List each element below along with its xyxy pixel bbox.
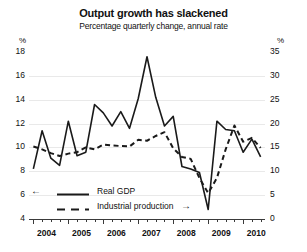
right-axis-tick-label: 25 xyxy=(270,95,292,104)
x-axis-tick-label: 2010 xyxy=(236,228,276,238)
legend-dashed-line-icon xyxy=(57,208,89,211)
x-axis-minor-tick xyxy=(42,219,43,222)
x-axis-major-tick xyxy=(173,219,174,224)
left-axis-tick-label: 12 xyxy=(5,119,25,128)
right-axis-unit-label: % xyxy=(277,36,284,45)
right-axis-tick-label: 0 xyxy=(270,214,292,223)
x-axis-minor-tick xyxy=(95,219,96,222)
left-axis-tick-label: 4 xyxy=(5,214,25,223)
right-axis-tick-label: 15 xyxy=(270,142,292,151)
right-axis-tick-label: 5 xyxy=(270,190,292,199)
x-axis-minor-tick xyxy=(112,219,113,222)
left-axis-tick-label: 16 xyxy=(5,71,25,80)
x-axis-minor-tick xyxy=(130,219,131,222)
x-axis-major-tick xyxy=(208,219,209,224)
legend-label-industrial-production: Industrial production xyxy=(97,201,174,211)
legend-solid-line-icon xyxy=(57,193,89,196)
right-axis-tick-label: 35 xyxy=(270,47,292,56)
series-industrial-production xyxy=(33,125,260,193)
legend-label-real-gdp: Real GDP xyxy=(97,186,135,196)
x-axis-minor-tick xyxy=(156,219,157,222)
x-axis-major-tick xyxy=(103,219,104,224)
x-axis-minor-tick xyxy=(51,219,52,222)
chart-subtitle: Percentage quarterly change, annual rate xyxy=(0,21,307,31)
x-axis-minor-tick xyxy=(86,219,87,222)
left-axis-tick-label: 6 xyxy=(5,190,25,199)
x-axis-minor-tick xyxy=(217,219,218,222)
x-axis-minor-tick xyxy=(226,219,227,222)
x-axis-major-tick xyxy=(138,219,139,224)
x-axis-minor-tick xyxy=(261,219,262,222)
chart-figure: Output growth has slackened Percentage q… xyxy=(0,0,307,252)
left-axis-tick-label: 14 xyxy=(5,95,25,104)
left-axis-unit-label: % xyxy=(19,36,26,45)
x-axis-minor-tick xyxy=(164,219,165,222)
x-axis-minor-tick xyxy=(147,219,148,222)
left-axis-tick-label: 8 xyxy=(5,166,25,175)
x-axis-minor-tick xyxy=(234,219,235,222)
x-axis-minor-tick xyxy=(60,219,61,222)
x-axis-major-tick xyxy=(33,219,34,224)
left-axis-tick-label: 10 xyxy=(5,142,25,151)
x-axis-major-tick xyxy=(68,219,69,224)
x-axis-minor-tick xyxy=(191,219,192,222)
left-axis-tick-label: 18 xyxy=(5,47,25,56)
x-axis-minor-tick xyxy=(182,219,183,222)
x-axis-major-tick xyxy=(243,219,244,224)
x-axis-minor-tick xyxy=(199,219,200,222)
x-axis-minor-tick xyxy=(121,219,122,222)
x-axis-minor-tick xyxy=(252,219,253,222)
right-axis-tick-label: 30 xyxy=(270,71,292,80)
right-axis-tick-label: 20 xyxy=(270,119,292,128)
chart-title: Output growth has slackened xyxy=(0,7,307,19)
right-axis-tick-label: 10 xyxy=(270,166,292,175)
x-axis-minor-tick xyxy=(77,219,78,222)
series-real-gdp xyxy=(33,57,260,210)
right-axis-arrow-icon: → xyxy=(181,200,191,211)
left-axis-arrow-icon: ← xyxy=(31,185,41,196)
